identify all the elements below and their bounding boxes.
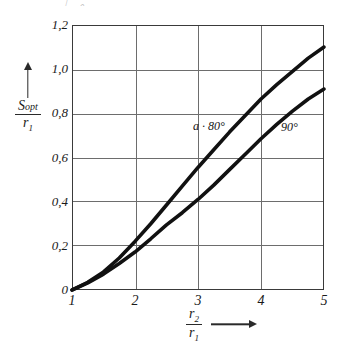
curve-label-90: 90°	[281, 120, 298, 135]
x-title-numerator-sub: 2	[194, 314, 199, 324]
curve-a80	[72, 47, 324, 290]
curve-label-a80: a · 80°	[193, 119, 225, 134]
x-tick-label: 2	[120, 293, 150, 309]
x-title-denominator-sub: 1	[194, 333, 199, 343]
x-axis-arrow-icon	[211, 319, 257, 329]
x-axis-title-fraction: r2 r1	[186, 306, 202, 343]
x-tick-label: 5	[309, 293, 339, 309]
x-tick-label: 1	[57, 293, 87, 309]
x-axis-title: r2 r1	[186, 306, 257, 343]
